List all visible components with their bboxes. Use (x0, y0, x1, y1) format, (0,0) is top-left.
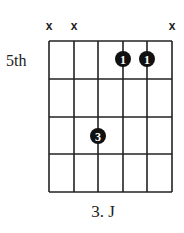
finger-number: 1 (120, 53, 126, 67)
finger-dot-string4-fret1: 1 (115, 51, 131, 67)
finger-dot-string5-fret1: 1 (139, 51, 155, 67)
finger-dot-string3-fret3: 3 (90, 128, 106, 144)
finger-number: 3 (95, 130, 101, 144)
fret-lines (49, 41, 172, 192)
finger-number: 1 (144, 53, 150, 67)
chord-caption: 3. J (0, 202, 184, 222)
fretboard-grid: 1 1 3 (0, 0, 184, 233)
